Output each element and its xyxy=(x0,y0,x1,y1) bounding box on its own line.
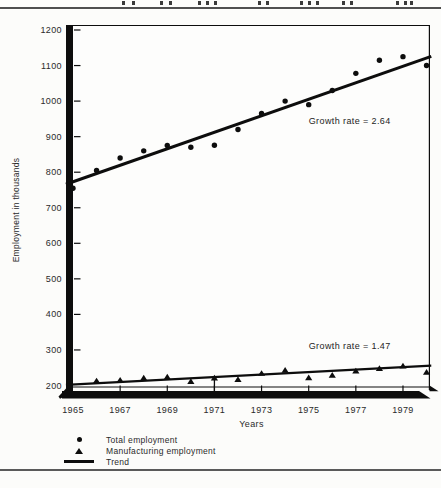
data-point-total xyxy=(117,155,122,160)
data-point-total xyxy=(212,142,217,147)
data-point-total xyxy=(306,102,311,107)
data-point-total xyxy=(235,127,240,132)
x-tick-label: 1977 xyxy=(345,405,367,415)
y-axis-bar xyxy=(66,26,73,391)
annotation-growth-rate-manufacturing: Growth rate = 1.47 xyxy=(309,341,391,351)
y-tick-label: 200 xyxy=(46,381,62,391)
data-point-total xyxy=(330,88,335,93)
y-tick-label: 900 xyxy=(46,132,62,142)
line-marker-icon xyxy=(64,460,94,463)
data-point-total xyxy=(377,58,382,63)
y-tick-label: 1200 xyxy=(40,25,62,35)
plot-area: 2003004005006007008009001000110012001965… xyxy=(0,0,441,435)
y-tick-label: 600 xyxy=(46,238,62,248)
x-axis-beam xyxy=(62,391,431,399)
x-tick-label: 1975 xyxy=(298,405,320,415)
x-tick-label: 1965 xyxy=(62,405,84,415)
triangle-marker-icon xyxy=(75,448,83,454)
plot-background xyxy=(73,25,430,387)
x-tick-label: 1979 xyxy=(392,405,414,415)
data-point-total xyxy=(282,98,287,103)
annotation-growth-rate-total: Growth rate = 2.64 xyxy=(309,116,391,126)
data-point-total xyxy=(141,148,146,153)
y-tick-label: 1000 xyxy=(40,96,62,106)
chart-figure: Employment in thousands 2003004005006007… xyxy=(0,0,441,488)
bottom-rule xyxy=(0,469,441,471)
legend-item-trend: Trend xyxy=(63,456,216,467)
x-axis-title: Years xyxy=(73,419,430,429)
data-point-total xyxy=(70,185,75,190)
data-point-total xyxy=(94,168,99,173)
data-point-total xyxy=(165,143,170,148)
x-tick-label: 1973 xyxy=(251,405,273,415)
data-point-total xyxy=(353,71,358,76)
y-tick-label: 500 xyxy=(46,274,62,284)
y-tick-label: 700 xyxy=(46,203,62,213)
x-tick-label: 1967 xyxy=(109,405,131,415)
circle-marker-icon xyxy=(77,437,82,442)
legend-label: Manufacturing employment xyxy=(106,446,216,456)
y-tick-label: 800 xyxy=(46,167,62,177)
x-tick-label: 1969 xyxy=(156,405,178,415)
x-axis-beam-tip xyxy=(430,386,439,392)
y-tick-label: 300 xyxy=(46,345,62,355)
data-point-total xyxy=(400,54,405,59)
data-point-total xyxy=(424,63,429,68)
y-tick-label: 1100 xyxy=(41,61,62,71)
legend-item-total-employment: Total employment xyxy=(63,434,216,445)
legend-item-manufacturing-employment: Manufacturing employment xyxy=(63,445,216,456)
y-tick-label: 400 xyxy=(46,309,62,319)
data-point-total xyxy=(188,145,193,150)
data-point-total xyxy=(259,111,264,116)
x-tick-label: 1971 xyxy=(204,405,226,415)
legend-label: Total employment xyxy=(106,435,177,445)
legend-label: Trend xyxy=(106,457,129,467)
legend: Total employment Manufacturing employmen… xyxy=(63,434,216,467)
